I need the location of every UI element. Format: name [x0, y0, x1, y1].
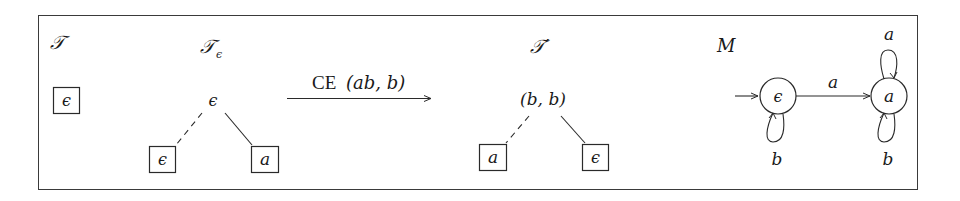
leaf-label: ϵ [62, 91, 71, 110]
solid-edge [561, 116, 585, 143]
leaf-label-right: ϵ [591, 148, 600, 167]
dashed-edge [506, 116, 529, 143]
panel-t: 𝒯 ϵ [50, 31, 80, 114]
panel-title-t: 𝒯 [50, 31, 70, 53]
transition-label: a [828, 72, 838, 92]
panel-title-subscript: ϵ [216, 48, 222, 61]
panel-title-t-prime: 𝒯′ [530, 35, 550, 57]
state-label: ϵ [774, 87, 783, 106]
ce-args: (ab, b) [346, 72, 405, 93]
transition-label: b [883, 149, 894, 169]
tree-root-label: ϵ [209, 91, 218, 110]
solid-edge [225, 113, 252, 145]
counterexample-transition: CE (ab, b) [287, 72, 431, 99]
leaf-label-left: ϵ [158, 150, 167, 169]
tree-root-label: (b, b) [520, 89, 566, 109]
diagram-canvas: 𝒯 ϵ 𝒯 ϵ ϵ ϵ a CE (ab, b) 𝒯′ (b, b) a ϵ M [0, 0, 960, 201]
panel-t-prime: 𝒯′ (b, b) a ϵ [480, 35, 609, 171]
state-label: a [884, 86, 894, 106]
ce-label: CE [312, 72, 336, 93]
leaf-label-left: a [488, 147, 498, 167]
transition-label: b [772, 149, 783, 169]
panel-title-m: M [716, 35, 736, 56]
leaf-label-right: a [260, 149, 270, 169]
dashed-edge [176, 113, 202, 145]
self-loop [881, 50, 897, 79]
panel-t-epsilon: 𝒯 ϵ ϵ ϵ a [150, 35, 279, 173]
transition-label: a [884, 24, 894, 44]
panel-automaton-m: M ϵ a a b a b [716, 24, 907, 169]
